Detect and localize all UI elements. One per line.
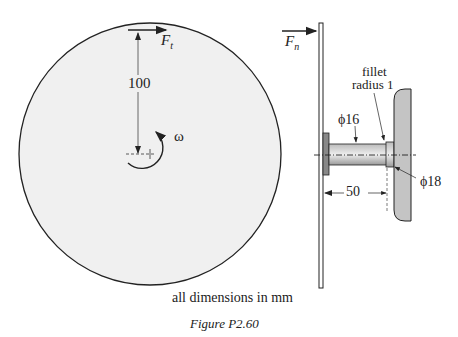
shoulder-diameter-label: ϕ18 bbox=[420, 174, 441, 190]
omega-label: ω bbox=[174, 128, 184, 145]
units-note: all dimensions in mm bbox=[172, 290, 293, 306]
shoulder bbox=[386, 142, 394, 167]
radius-label: 100 bbox=[128, 75, 151, 92]
fn-label: Fn bbox=[285, 33, 299, 52]
shaft-diameter-label: ϕ16 bbox=[338, 112, 359, 128]
shaft bbox=[329, 144, 387, 165]
plate bbox=[319, 23, 323, 288]
ft-label: Ft bbox=[161, 32, 173, 51]
hub bbox=[323, 133, 329, 175]
fillet-label-2: radius 1 bbox=[352, 77, 394, 93]
figure-caption: Figure P2.60 bbox=[190, 316, 259, 332]
diagram-canvas bbox=[0, 0, 458, 337]
length-label: 50 bbox=[346, 184, 360, 200]
